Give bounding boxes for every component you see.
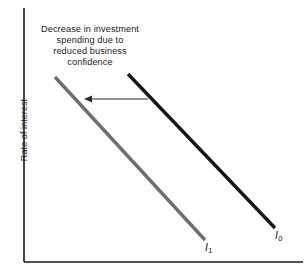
curve-label-i0: I0: [275, 229, 282, 241]
caption-line-1: Decrease in investment: [26, 24, 154, 35]
shift-arrow-head-icon: [84, 96, 92, 103]
investment-demand-chart: Decrease in investment spending due to r…: [0, 0, 306, 272]
caption-line-4: confidence: [26, 57, 154, 68]
shift-caption: Decrease in investment spending due to r…: [26, 24, 154, 68]
y-axis-title: Rate of interest: [19, 60, 29, 200]
investment-curve-i1: [55, 77, 205, 240]
curve-label-i0-subscript: 0: [278, 234, 282, 243]
investment-curve-i0: [128, 74, 275, 228]
curve-label-i1: I1: [205, 241, 212, 253]
caption-line-2: spending due to: [26, 35, 154, 46]
caption-line-3: reduced business: [26, 46, 154, 57]
curve-label-i1-subscript: 1: [208, 246, 212, 255]
